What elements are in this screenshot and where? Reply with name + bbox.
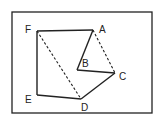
point-label-c: C (119, 71, 126, 82)
dashed-edge-ac (93, 30, 115, 73)
dashed-edges (37, 30, 115, 99)
dashed-edge-fd (37, 31, 81, 99)
point-label-f: F (25, 24, 31, 35)
solid-edge-fa (37, 30, 93, 31)
point-label-d: D (81, 102, 88, 113)
point-label-a: A (99, 24, 106, 35)
solid-edge-bc (77, 70, 115, 73)
solid-edges (37, 30, 115, 99)
point-labels: ABCDEF (25, 24, 126, 113)
solid-edge-de (37, 95, 81, 99)
solid-edge-cd (81, 73, 115, 99)
point-label-b: B (82, 58, 89, 69)
geometry-diagram: ABCDEF (0, 0, 161, 118)
point-label-e: E (25, 94, 32, 105)
